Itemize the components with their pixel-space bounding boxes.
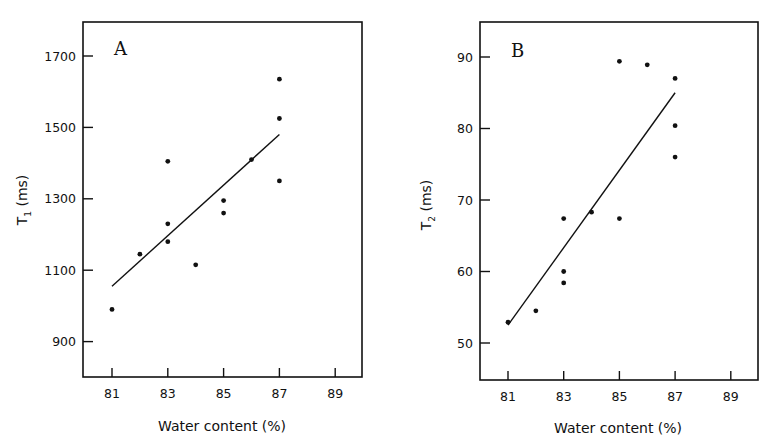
x-tick-label: 83 <box>556 389 572 404</box>
y-tick-label: 1700 <box>44 49 76 64</box>
data-point <box>221 198 226 203</box>
y-tick-label: 80 <box>457 121 473 136</box>
data-point <box>561 281 566 286</box>
data-point <box>645 62 650 67</box>
y-axis-title-b: T2 (ms) <box>418 180 437 232</box>
data-point <box>561 216 566 221</box>
y-tick-label: 90 <box>457 50 473 65</box>
svg-text:T2 (ms): T2 (ms) <box>418 180 437 232</box>
x-tick-label: 81 <box>500 389 516 404</box>
data-point <box>617 59 622 64</box>
data-point <box>673 123 678 128</box>
data-point <box>277 116 282 121</box>
data-point <box>533 308 538 313</box>
y-axis-title-unit-b: (ms) <box>418 180 434 212</box>
y-axis-title-main-a: T <box>14 216 30 226</box>
data-point <box>589 210 594 215</box>
y-axis-title-unit-a: (ms) <box>14 175 30 207</box>
x-tick-label: 87 <box>271 386 287 401</box>
x-axis-title-b: Water content (%) <box>554 420 682 436</box>
data-point <box>561 269 566 274</box>
data-point <box>673 76 678 81</box>
svg-text:T1 (ms): T1 (ms) <box>14 175 33 227</box>
x-axis-ticks-b: 8183858789 <box>500 371 739 404</box>
y-tick-label: 900 <box>52 334 76 349</box>
data-point <box>138 252 143 257</box>
data-point <box>277 77 282 82</box>
data-point <box>165 159 170 164</box>
x-tick-label: 87 <box>667 389 683 404</box>
data-points-b <box>506 59 678 325</box>
data-point <box>165 221 170 226</box>
y-tick-label: 50 <box>457 336 473 351</box>
data-point <box>249 157 254 162</box>
data-point <box>506 320 511 325</box>
figure: A 9001100130015001700 8183858789 Water c… <box>0 0 761 443</box>
regression-line <box>508 93 675 325</box>
x-tick-label: 83 <box>160 386 176 401</box>
y-axis-title-a: T1 (ms) <box>14 175 33 227</box>
y-axis-ticks-b: 5060708090 <box>457 50 490 351</box>
y-tick-label: 70 <box>457 193 473 208</box>
data-point <box>165 239 170 244</box>
y-tick-label: 60 <box>457 264 473 279</box>
x-tick-label: 89 <box>723 389 739 404</box>
data-point <box>277 179 282 184</box>
data-point <box>193 262 198 267</box>
plot-frame-b <box>480 22 758 380</box>
data-points-a <box>110 77 282 312</box>
x-tick-label: 89 <box>327 386 343 401</box>
x-axis-title-a: Water content (%) <box>158 418 286 434</box>
x-tick-label: 85 <box>216 386 232 401</box>
y-tick-label: 1300 <box>44 191 76 206</box>
y-axis-ticks-a: 9001100130015001700 <box>44 49 93 350</box>
data-point <box>617 216 622 221</box>
chart-panel-b: B 5060708090 8183858789 Water content (%… <box>418 22 758 436</box>
y-tick-label: 1500 <box>44 120 76 135</box>
data-point <box>673 155 678 160</box>
panel-letter-b: B <box>511 40 524 61</box>
fit-line-b <box>508 93 675 325</box>
x-tick-label: 85 <box>611 389 627 404</box>
data-point <box>221 211 226 216</box>
x-axis-ticks-a: 8183858789 <box>104 368 343 401</box>
y-axis-title-main-b: T <box>418 221 434 231</box>
x-tick-label: 81 <box>104 386 120 401</box>
chart-panel-a: A 9001100130015001700 8183858789 Water c… <box>14 22 362 434</box>
panel-letter-a: A <box>113 38 128 59</box>
data-point <box>110 307 115 312</box>
y-tick-label: 1100 <box>44 263 76 278</box>
